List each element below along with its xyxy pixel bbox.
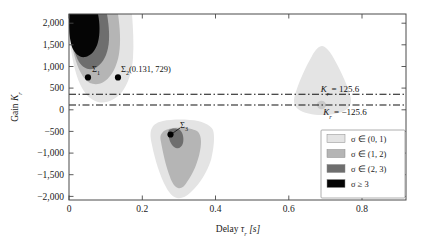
kr-rest-neg: = −125.6 [332, 107, 367, 117]
x-axis-title-unit: [s] [247, 224, 261, 234]
legend-label-2: σ ∈ (2, 3) [351, 164, 386, 174]
y-axis-title-sub: r [16, 92, 23, 95]
legend-label-1: σ ∈ (1, 2) [351, 149, 386, 159]
y-tick-label-2000: 2,000 [43, 18, 65, 28]
x-tick-label-1: 0.2 [136, 204, 148, 214]
legend-label-3: σ ≥ 3 [351, 179, 369, 189]
x-axis-title: Delay τr [s] [216, 224, 261, 237]
x-tick-label-2: 0.4 [210, 204, 222, 214]
sigma-1-sub: 1 [97, 70, 100, 76]
y-axis-title-text: Gain [10, 101, 20, 122]
y-tick-label-minus2000: −2,000 [37, 192, 64, 202]
kr-rest-pos: = 125.6 [329, 84, 359, 94]
sigma-3-sub: 3 [185, 126, 188, 132]
x-tick-label-3: 0.6 [283, 204, 295, 214]
y-tick-label-minus500: −500 [44, 127, 64, 137]
y-tick-label-1500: 1,500 [43, 40, 65, 50]
y-tick-label-minus1000: −1,000 [37, 148, 64, 158]
legend-swatch-0 [327, 135, 345, 143]
legend-swatch-1 [327, 150, 345, 158]
x-axis-tick-labels: 0 0.2 0.4 0.6 0.8 [67, 204, 369, 214]
y-axis-tick-labels: −2,000 −1,500 −1,000 −500 0 500 1,000 1,… [37, 18, 64, 201]
y-axis-title: Gain Kr [10, 92, 23, 122]
point-marker-sigma-3 [167, 131, 173, 137]
contour-plot-figure: Kr = 125.6 Kr = −125.6 Σ1 Σ2(0.131, 729)… [0, 0, 427, 241]
y-tick-label-500: 500 [50, 83, 65, 93]
sigma-2-value: (0.131, 729) [129, 64, 171, 74]
plot-svg: Kr = 125.6 Kr = −125.6 Σ1 Σ2(0.131, 729)… [0, 0, 427, 241]
legend-label-0: σ ∈ (0, 1) [351, 134, 386, 144]
point-marker-sigma-2 [115, 74, 121, 80]
y-tick-label-minus1500: −1,500 [37, 170, 64, 180]
x-tick-label-0: 0 [67, 204, 72, 214]
legend-swatch-3 [327, 180, 345, 188]
x-axis-title-text: Delay [216, 224, 241, 234]
x-tick-label-4: 0.8 [356, 204, 368, 214]
legend: σ ∈ (0, 1) σ ∈ (1, 2) σ ∈ (2, 3) σ ≥ 3 [321, 130, 405, 198]
point-marker-sigma-1 [85, 74, 91, 80]
y-tick-label-0: 0 [59, 105, 64, 115]
y-tick-label-1000: 1,000 [43, 62, 65, 72]
legend-swatch-2 [327, 165, 345, 173]
